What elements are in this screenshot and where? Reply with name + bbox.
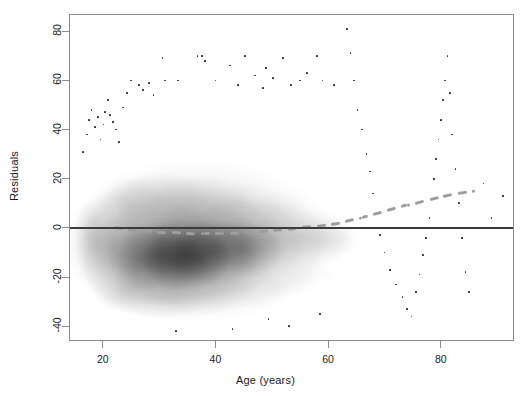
y-tick-label: 20 <box>51 158 63 198</box>
scatter-point <box>107 99 109 101</box>
y-tick-label: -20 <box>51 256 63 296</box>
y-tick-label: -40 <box>51 305 63 345</box>
scatter-point <box>237 84 239 86</box>
density-blob <box>153 174 254 223</box>
scatter-point <box>82 151 84 153</box>
scatter-point <box>197 55 199 57</box>
scatter-point <box>148 82 150 84</box>
scatter-point <box>138 84 140 86</box>
density-blob <box>142 193 288 296</box>
scatter-point <box>389 269 391 271</box>
scatter-point <box>346 28 348 30</box>
scatter-point <box>244 55 246 57</box>
smoother-dash <box>215 232 224 235</box>
density-blob <box>204 181 283 225</box>
scatter-point <box>353 80 355 82</box>
scatter-point <box>112 121 114 123</box>
x-tick-label: 20 <box>83 353 123 365</box>
scatter-point <box>379 234 381 236</box>
density-blob <box>165 230 233 289</box>
scatter-point <box>118 141 120 143</box>
x-tick-mark <box>215 341 216 348</box>
scatter-point <box>290 84 292 86</box>
scatter-point <box>415 291 417 293</box>
y-tick-label: 0 <box>51 207 63 247</box>
scatter-point <box>175 330 177 332</box>
density-blob <box>244 189 312 228</box>
density-blob <box>204 221 283 280</box>
x-tick-label: 80 <box>421 353 461 365</box>
x-tick-mark <box>440 341 441 348</box>
scatter-point <box>406 308 408 310</box>
plot-panel <box>70 15 513 340</box>
scatter-point <box>357 109 359 111</box>
density-blob <box>249 203 350 272</box>
scatter-point <box>433 178 435 180</box>
density-blob <box>182 196 306 289</box>
smoother-dash <box>230 231 239 235</box>
density-cloud <box>70 15 513 340</box>
scatter-point <box>425 237 427 239</box>
scatter-point <box>435 158 437 160</box>
scatter-point <box>288 325 290 327</box>
density-blob <box>153 272 254 316</box>
y-tick-mark <box>62 326 69 327</box>
scatter-point <box>422 254 424 256</box>
density-blob <box>277 211 356 265</box>
scatter-point <box>164 80 166 82</box>
scatter-point <box>306 72 308 74</box>
scatter-point <box>272 77 274 79</box>
density-blob <box>108 225 176 294</box>
scatter-point <box>455 168 457 170</box>
y-tick-label: 40 <box>51 109 63 149</box>
scatter-point <box>440 119 442 121</box>
scatter-point <box>262 87 264 89</box>
scatter-point <box>201 55 203 57</box>
scatter-point <box>299 80 301 82</box>
density-blob <box>80 189 148 307</box>
smoother-dash <box>159 231 166 234</box>
density-blob <box>142 218 232 292</box>
density-blob <box>199 270 289 309</box>
scatter-point <box>130 80 132 82</box>
density-blob <box>92 198 227 306</box>
scatter-point <box>502 195 504 197</box>
smoother-dash <box>136 229 137 232</box>
x-tick-label: 60 <box>308 353 348 365</box>
y-tick-mark <box>62 227 69 228</box>
scatter-point <box>458 202 460 204</box>
density-blob <box>97 176 165 230</box>
x-tick-mark <box>328 341 329 348</box>
smoother-dash <box>472 189 475 193</box>
scatter-point <box>369 171 371 173</box>
x-tick-label: 40 <box>195 353 235 365</box>
scatter-point <box>126 92 128 94</box>
density-blob <box>75 193 120 291</box>
y-axis-label: Residuals <box>8 116 20 236</box>
scatter-point <box>94 126 96 128</box>
density-blob <box>70 157 334 324</box>
density-blob <box>92 270 160 314</box>
x-axis-label: Age (years) <box>0 374 531 386</box>
scatter-point <box>142 89 144 91</box>
figure-canvas: Residuals 20406080806040200-20-40 Age (y… <box>0 0 531 410</box>
scatter-point <box>461 237 463 239</box>
scatter-point <box>204 60 206 62</box>
scatter-point <box>316 55 318 57</box>
zero-reference-line <box>70 227 513 229</box>
density-blob <box>215 198 328 282</box>
y-tick-label: 60 <box>51 59 63 99</box>
density-blob <box>70 174 277 322</box>
density-blob <box>108 171 209 225</box>
density-blob <box>272 257 340 287</box>
scatter-point <box>268 318 270 320</box>
scatter-point <box>282 57 284 59</box>
scatter-point <box>319 313 321 315</box>
scatter-point <box>449 92 451 94</box>
y-tick-mark <box>62 178 69 179</box>
smoother-dash <box>186 232 195 235</box>
density-blob <box>108 275 209 319</box>
x-tick-mark <box>102 341 103 348</box>
y-tick-mark <box>62 80 69 81</box>
y-tick-mark <box>62 129 69 130</box>
